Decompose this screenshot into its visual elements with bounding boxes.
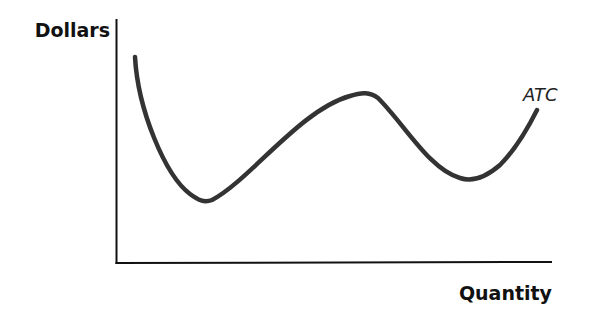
x-axis-label: Quantity [459,282,553,304]
atc-curve-label: ATC [522,84,558,105]
x-axis [116,262,553,263]
atc-diagram: Dollars Quantity ATC [0,0,595,325]
atc-curve [135,57,537,201]
y-axis-label: Dollars [35,19,110,41]
